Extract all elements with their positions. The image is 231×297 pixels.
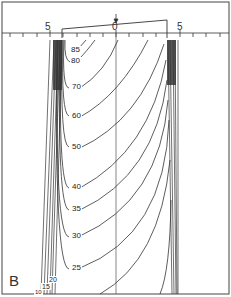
contour-label-40: 40 [71,183,82,191]
contour-label-85: 85 [70,46,81,54]
axis-tick-label-0: 0 [112,22,118,32]
right-wall-contours [167,40,178,294]
contour-label-80: 80 [70,57,81,65]
contour-label-35: 35 [71,205,82,213]
contour-curves [57,40,172,294]
panel-label: B [9,273,19,288]
contour-label-60: 60 [71,112,82,120]
contour-label-30: 30 [71,232,82,240]
contour-label-25: 25 [71,264,82,272]
axis-tick-label-right-5: 5 [177,22,183,32]
contour-label-20: 20 [48,276,58,283]
contour-diagram [0,0,231,297]
axis-tick-label-left-5: 5 [45,22,51,32]
contour-label-70: 70 [71,83,82,91]
contour-label-50: 50 [71,143,82,151]
contour-label-10: 10 [34,289,43,295]
left-wall-contours [41,40,62,294]
